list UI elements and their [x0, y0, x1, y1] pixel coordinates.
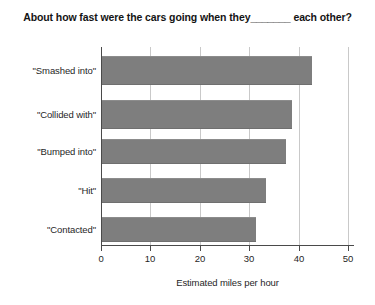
x-tick-label-50: 50 [333, 253, 363, 264]
category-label-bumped-into: "Bumped into" [37, 146, 96, 157]
x-tick-label-40: 40 [284, 253, 314, 264]
x-tick-30 [249, 246, 250, 251]
category-label-contacted: "Contacted" [47, 224, 96, 235]
bar-collided-with [101, 100, 292, 129]
bar-chart-plot-area: "Smashed into" "Collided with" "Bumped i… [0, 0, 375, 305]
x-tick-50 [348, 246, 349, 251]
category-label-hit: "Hit" [78, 185, 96, 196]
x-tick-label-10: 10 [135, 253, 165, 264]
category-label-smashed-into: "Smashed into" [33, 65, 96, 76]
x-tick-0 [101, 246, 102, 251]
x-tick-10 [150, 246, 151, 251]
bar-contacted [101, 217, 256, 242]
x-axis-line [101, 245, 354, 246]
bar-hit [101, 178, 266, 203]
x-tick-40 [299, 246, 300, 251]
x-axis-title: Estimated miles per hour [101, 277, 354, 288]
y-axis-line [101, 47, 102, 246]
category-label-collided-with: "Collided with" [37, 109, 96, 120]
x-tick-label-30: 30 [234, 253, 264, 264]
bar-smashed-into [101, 56, 312, 85]
gridline-50 [348, 47, 349, 245]
x-tick-20 [200, 246, 201, 251]
x-tick-label-20: 20 [185, 253, 215, 264]
bar-bumped-into [101, 139, 286, 164]
x-tick-label-0: 0 [86, 253, 116, 264]
